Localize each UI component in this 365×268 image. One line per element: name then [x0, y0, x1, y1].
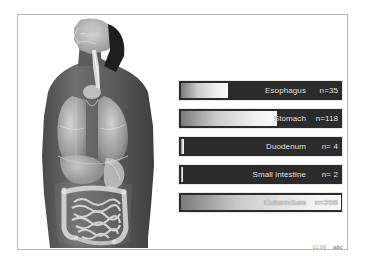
bar-count-stomach: n=118: [312, 114, 338, 123]
bar-fill-esophagus: [181, 83, 228, 98]
bar-count-duodenum: n= 4: [312, 142, 338, 151]
bar-label-colorectum: Colorectum: [264, 198, 306, 207]
bar-label-duodenum: Duodenum: [266, 142, 306, 151]
bar-text-stomach: Stomach n=118: [274, 109, 338, 128]
gi-site-bar-chart: Esophagus n=35 Stomach n=118 Duodenum n=…: [178, 80, 343, 220]
bar-fill-stomach: [181, 111, 277, 126]
footer-logo: abc: [333, 244, 343, 250]
bar-fill-duodenum: [181, 139, 184, 154]
bar-row-small-intestine: Small intestine n= 2: [178, 164, 343, 185]
bar-label-esophagus: Esophagus: [265, 86, 306, 95]
bar-row-colorectum: Colorectum n=208: [178, 192, 343, 213]
slide-canvas: Esophagus n=35 Stomach n=118 Duodenum n=…: [0, 0, 365, 268]
abdominal-cavity-glow: [54, 180, 132, 247]
bar-count-esophagus: n=35: [312, 86, 338, 95]
human-torso-gi-anatomy-illustration: [20, 16, 170, 248]
head-sagittal-section: [74, 18, 114, 54]
bar-label-small-intestine: Small intestine: [252, 170, 306, 179]
bar-text-colorectum: Colorectum n=208: [264, 193, 338, 212]
mediastinum-structure: [83, 85, 101, 99]
bar-row-duodenum: Duodenum n= 4: [178, 136, 343, 157]
bar-count-small-intestine: n= 2: [312, 170, 338, 179]
bar-label-stomach: Stomach: [274, 114, 306, 123]
slide-footer: 01:09 abc: [312, 244, 343, 250]
bar-text-small-intestine: Small intestine n= 2: [252, 165, 338, 184]
bar-fill-small-intestine: [181, 167, 183, 182]
bar-count-colorectum: n=208: [312, 198, 338, 207]
bar-row-esophagus: Esophagus n=35: [178, 80, 343, 101]
bar-text-esophagus: Esophagus n=35: [265, 81, 338, 100]
sinus-cavity: [83, 25, 97, 35]
bar-text-duodenum: Duodenum n= 4: [266, 137, 338, 156]
footer-timestamp: 01:09: [312, 244, 326, 250]
bar-row-stomach: Stomach n=118: [178, 108, 343, 129]
